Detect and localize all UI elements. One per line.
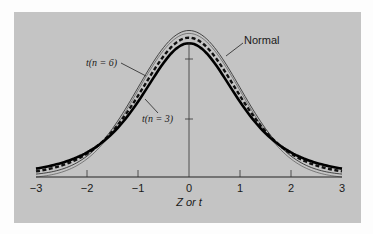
annotation-t6-arrow (121, 63, 146, 76)
x-tick-label: −2 (81, 182, 94, 194)
x-tick-label: 1 (237, 182, 243, 194)
x-tick-label: −3 (30, 182, 43, 194)
x-axis-label: Z or t (175, 196, 203, 208)
annotation-t6: t(n = 6) (86, 57, 118, 69)
x-tick-label: 2 (288, 182, 294, 194)
x-tick-label: 0 (186, 182, 192, 194)
annotation-normal-arrow (226, 43, 243, 56)
x-tick-label: 3 (339, 182, 345, 194)
distribution-chart: −3 −2 −1 0 1 2 3 Z or t Normal t(n = 6) … (0, 0, 373, 234)
annotation-normal: Normal (244, 34, 279, 46)
annotation-t3-arrow (145, 99, 158, 113)
x-tick-label: −1 (132, 182, 145, 194)
x-tick-labels: −3 −2 −1 0 1 2 3 (30, 182, 345, 194)
annotation-t3: t(n = 3) (142, 113, 174, 125)
